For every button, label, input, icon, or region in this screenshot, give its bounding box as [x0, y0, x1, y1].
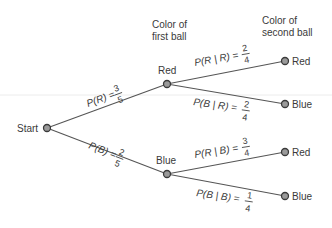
prob-blue-denominator: 5: [113, 158, 121, 169]
prob-rb-denominator: 4: [244, 147, 251, 158]
start-label: Start: [17, 123, 38, 134]
prob-bb-numerator: 1: [246, 190, 252, 201]
edge-blue-red: [167, 152, 285, 174]
second-blue-after-blue-label: Blue: [292, 191, 312, 202]
second-red-after-blue-node: [282, 149, 289, 156]
prob-bb-label: P(B | B) =: [196, 187, 241, 204]
second-red-after-red-label: Red: [292, 56, 310, 67]
header-second-ball: Color of second ball: [262, 15, 313, 38]
header-first-ball: Color of first ball: [152, 19, 187, 42]
second-red-after-red-node: [282, 58, 289, 65]
first-red-label: Red: [158, 65, 176, 76]
prob-br-numerator: 2: [243, 99, 249, 110]
prob-rb-numerator: 3: [242, 136, 249, 147]
prob-rr-numerator: 2: [241, 43, 248, 54]
second-red-after-blue-label: Red: [292, 147, 310, 158]
prob-blue: P(B) = 2 5: [85, 136, 127, 170]
header-second-ball-line2: second ball: [262, 27, 313, 38]
prob-blue-numerator: 2: [118, 147, 126, 158]
probability-tree-diagram: Color of first ball Color of second ball…: [0, 0, 332, 228]
prob-red: P(R) = 3 5: [84, 82, 126, 115]
second-blue-after-blue-node: [282, 193, 289, 200]
prob-br-label: P(B | R) =: [193, 96, 238, 113]
prob-br-denominator: 4: [242, 112, 248, 123]
start-node: [44, 125, 51, 132]
second-blue-after-red-label: Blue: [292, 99, 312, 110]
prob-rr-label: P(R | R) =: [193, 49, 239, 68]
first-red-node: [164, 81, 171, 88]
header-first-ball-line2: first ball: [152, 31, 186, 42]
prob-red-label: P(R) =: [85, 89, 116, 109]
prob-rr-denominator: 4: [243, 55, 250, 66]
prob-blue-label: P(B) =: [87, 140, 118, 161]
edge-red-red: [167, 61, 285, 84]
first-blue-label: Blue: [156, 155, 176, 166]
prob-rb-label: P(R | B) =: [194, 142, 239, 160]
first-blue-node: [164, 171, 171, 178]
fraction-bar: [245, 201, 253, 202]
header-second-ball-line1: Color of: [262, 15, 297, 26]
prob-red-given-blue: P(R | B) = 3 4: [193, 135, 252, 165]
header-first-ball-line1: Color of: [152, 19, 187, 30]
prob-blue-given-blue: P(B | B) = 1 4: [195, 183, 255, 214]
second-blue-after-red-node: [282, 101, 289, 108]
prob-bb-denominator: 4: [245, 203, 251, 214]
fraction-bar: [242, 110, 250, 111]
